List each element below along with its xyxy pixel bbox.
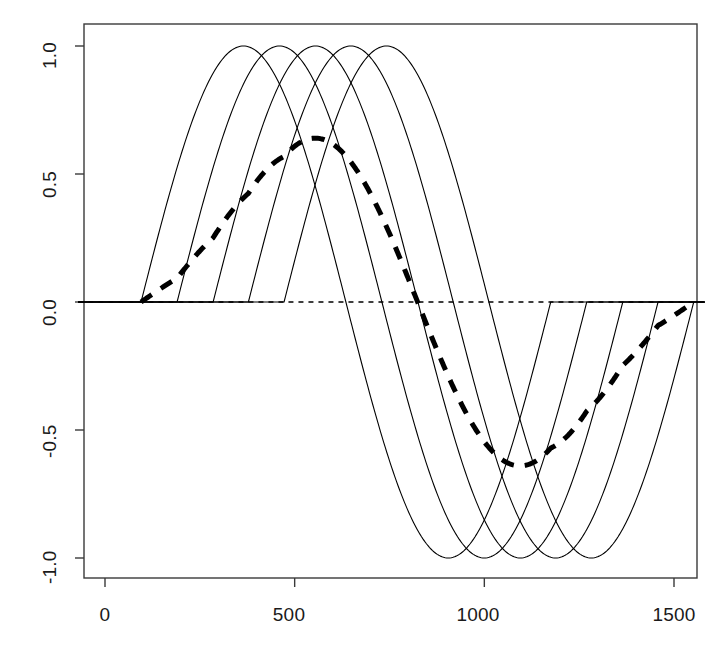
x-tick-label-2: 500 — [259, 604, 319, 626]
x-tick-label-4: 1500 — [644, 604, 704, 626]
plot-frame — [84, 24, 697, 578]
chart-figure: 1.0 0.5 0.0 -0.5 -1.0 0 500 1000 1500 — [0, 0, 728, 657]
y-tick-label-2: 0.5 — [39, 154, 61, 198]
y-tick-label-4: -0.5 — [39, 406, 61, 458]
y-tick-label-1: 1.0 — [39, 25, 61, 69]
x-tick-label-1: 0 — [75, 604, 135, 626]
x-tick-label-3: 1000 — [448, 604, 508, 626]
y-tick-label-3: 0.0 — [39, 282, 61, 326]
chart-canvas — [0, 0, 728, 657]
y-tick-label-5: -1.0 — [39, 532, 61, 584]
axis-ticks — [75, 46, 674, 587]
